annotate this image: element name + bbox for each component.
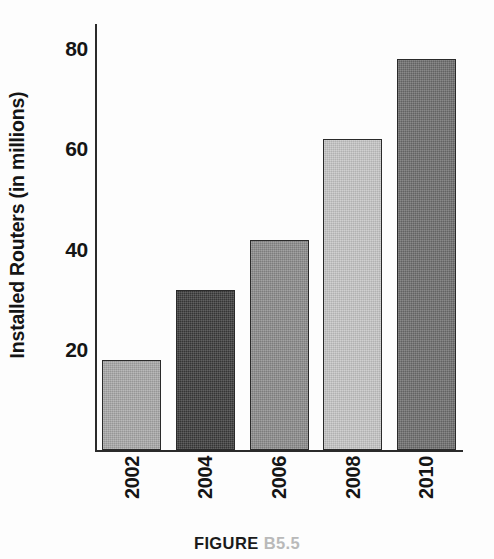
x-tick-label-2006: 2006 bbox=[250, 456, 309, 530]
y-axis-tick-labels: 20406080 bbox=[42, 0, 88, 559]
bar-slot-2008 bbox=[323, 24, 382, 450]
bar-2002[interactable] bbox=[102, 360, 161, 450]
x-tick-label-2010: 2010 bbox=[397, 456, 456, 530]
y-tick-label-80: 80 bbox=[42, 38, 88, 59]
bar-2010[interactable] bbox=[397, 59, 456, 450]
x-tick-label-text: 2010 bbox=[416, 456, 436, 499]
x-tick-label-text: 2006 bbox=[269, 456, 289, 499]
bar-slot-2004 bbox=[176, 24, 235, 450]
figure-caption-label: FIGURE bbox=[194, 534, 259, 552]
x-tick-label-text: 2008 bbox=[343, 456, 363, 499]
y-tick-label-40: 40 bbox=[42, 239, 88, 260]
y-axis-title: Installed Routers (in millions) bbox=[0, 0, 34, 450]
figure-caption: FIGUREB5.5 bbox=[0, 534, 494, 553]
figure-caption-number: B5.5 bbox=[264, 534, 300, 552]
x-tick-label-2002: 2002 bbox=[102, 456, 161, 530]
bar-2006[interactable] bbox=[250, 240, 309, 450]
figure-container: Installed Routers (in millions) 20406080… bbox=[0, 0, 494, 559]
x-tick-label-2008: 2008 bbox=[323, 456, 382, 530]
x-axis-line bbox=[95, 450, 463, 452]
y-tick-label-60: 60 bbox=[42, 138, 88, 159]
x-tick-label-text: 2002 bbox=[122, 456, 142, 499]
bar-slot-2006 bbox=[250, 24, 309, 450]
bar-slot-2002 bbox=[102, 24, 161, 450]
bar-2004[interactable] bbox=[176, 290, 235, 450]
x-tick-label-2004: 2004 bbox=[176, 456, 235, 530]
bar-slot-2010 bbox=[397, 24, 456, 450]
x-tick-label-text: 2004 bbox=[195, 456, 215, 499]
plot-area bbox=[95, 24, 463, 450]
bar-2008[interactable] bbox=[323, 139, 382, 450]
y-tick-label-20: 20 bbox=[42, 339, 88, 360]
